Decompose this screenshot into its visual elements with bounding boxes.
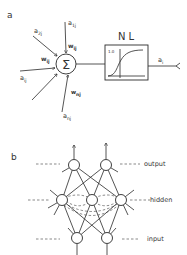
nl-title: N L bbox=[118, 31, 135, 42]
activation-label-nj: anj bbox=[63, 112, 71, 121]
weight-label-bottom: wnj bbox=[71, 89, 81, 97]
network-nodes bbox=[57, 160, 127, 244]
output-activation-label: ai bbox=[158, 56, 163, 65]
hidden-node-1 bbox=[87, 195, 98, 206]
hidden-node-2 bbox=[116, 195, 127, 206]
panel-b-label: b bbox=[11, 152, 17, 162]
output-node-0 bbox=[69, 160, 80, 171]
recurrent-connection-1 bbox=[64, 205, 119, 216]
layer-label-input: input bbox=[147, 235, 164, 243]
panel-b: b output hidden input bbox=[11, 143, 172, 255]
output-node-1 bbox=[101, 160, 112, 171]
nl-y-tick: 1.0 bbox=[108, 49, 115, 54]
input-line-1j-top bbox=[65, 22, 66, 53]
panel-a-label: a bbox=[7, 10, 13, 20]
hidden-node-0 bbox=[57, 195, 68, 206]
weight-label-top: wij bbox=[68, 42, 77, 51]
output-arrow-icon bbox=[176, 63, 180, 69]
layer-label-hidden: hidden bbox=[150, 196, 172, 204]
sum-symbol: Σ bbox=[62, 57, 70, 72]
activation-label-ij: aij bbox=[20, 74, 27, 83]
neural-network-figure: a Σ a2j a1j aij anj wij wij wnj N L 1.0 … bbox=[0, 0, 187, 255]
edge-hidden-2-output-0 bbox=[74, 165, 121, 200]
input-line-ij bbox=[20, 68, 55, 71]
input-line-2j bbox=[33, 36, 57, 56]
input-node-0 bbox=[72, 233, 83, 244]
panel-a: a Σ a2j a1j aij anj wij wij wnj N L 1.0 … bbox=[7, 10, 180, 121]
input-line-lower-left bbox=[32, 74, 57, 100]
weight-label-left: wij bbox=[41, 55, 50, 64]
input-node-1 bbox=[102, 233, 113, 244]
layer-label-output: output bbox=[144, 160, 166, 168]
activation-label-2j: a2j bbox=[34, 27, 42, 36]
activation-label-1j: a1j bbox=[68, 19, 76, 28]
input-line-nj bbox=[62, 75, 68, 112]
